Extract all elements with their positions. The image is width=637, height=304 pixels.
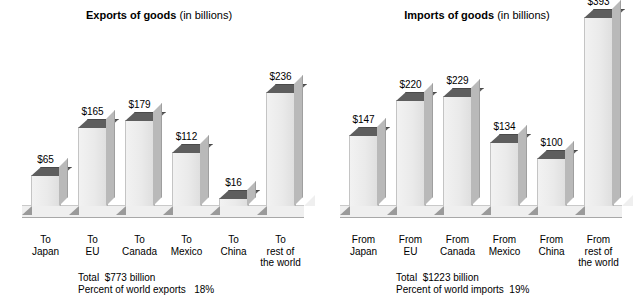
imports-panel: Imports of goods (in billions) $147 bbox=[318, 0, 636, 304]
exports-bar-rest-of-world[interactable]: $236 bbox=[266, 92, 296, 206]
imports-bar-shadow-canada bbox=[434, 206, 444, 215]
imports-category-mexico: From Mexico bbox=[481, 234, 528, 269]
imports-bar-japan[interactable]: $147 bbox=[349, 135, 379, 206]
imports-bar-side-japan bbox=[377, 118, 386, 206]
exports-bar-eu[interactable]: $165 bbox=[78, 127, 108, 206]
exports-bar-side-eu bbox=[106, 110, 115, 206]
exports-value-mexico: $112 bbox=[176, 131, 198, 142]
exports-category-eu: To EU bbox=[69, 234, 116, 269]
imports-bar-shadow-rest bbox=[575, 206, 585, 215]
exports-bar-front-eu bbox=[78, 127, 108, 206]
imports-bar-front-rest bbox=[584, 17, 614, 206]
exports-bar-canada[interactable]: $179 bbox=[125, 120, 155, 206]
imports-bar-shadow-eu bbox=[387, 206, 397, 215]
exports-bar-side-china bbox=[247, 181, 256, 206]
imports-category-eu: From EU bbox=[387, 234, 434, 269]
exports-bar-shadow-rest bbox=[257, 206, 267, 215]
exports-category-japan: To Japan bbox=[22, 234, 69, 269]
imports-category-canada: From Canada bbox=[434, 234, 481, 269]
imports-category-china: From China bbox=[528, 234, 575, 269]
exports-value-canada: $179 bbox=[128, 99, 150, 110]
imports-bar-slot-canada: $229 bbox=[434, 22, 481, 206]
imports-bar-front-canada bbox=[443, 96, 473, 206]
imports-bar-side-mexico bbox=[518, 125, 527, 206]
imports-bar-front-eu bbox=[396, 100, 426, 206]
exports-bar-shadow-china bbox=[210, 206, 220, 215]
exports-bar-front-canada bbox=[125, 120, 155, 206]
exports-bar-mexico[interactable]: $112 bbox=[172, 152, 202, 206]
imports-floor-edge bbox=[622, 195, 633, 206]
exports-bar-shadow-japan bbox=[22, 206, 32, 215]
exports-bar-side-japan bbox=[59, 158, 68, 206]
exports-bar-side-mexico bbox=[200, 135, 209, 206]
exports-bar-slot-mexico: $112 bbox=[163, 22, 210, 206]
imports-bar-slot-china: $100 bbox=[528, 22, 575, 206]
imports-total: Total $1223 billion bbox=[396, 272, 636, 284]
exports-bar-shadow-mexico bbox=[163, 206, 173, 215]
exports-bar-front-rest bbox=[266, 92, 296, 206]
imports-bar-slot-eu: $220 bbox=[387, 22, 434, 206]
two-panel-bar-chart: Exports of goods (in billions) $65 bbox=[0, 0, 637, 304]
exports-bar-slot-eu: $165 bbox=[69, 22, 116, 206]
exports-bar-slot-rest: $236 bbox=[257, 22, 304, 206]
exports-category-labels: To Japan To EU To Canada To Mexico To Ch… bbox=[22, 234, 304, 269]
imports-bar-china[interactable]: $100 bbox=[537, 158, 567, 206]
imports-plot-area: $147 $220 bbox=[318, 0, 636, 230]
exports-bar-slot-china: $16 bbox=[210, 22, 257, 206]
exports-bar-group: $65 $165 bbox=[22, 22, 304, 206]
imports-footer: Total $1223 billion Percent of world imp… bbox=[318, 272, 636, 295]
imports-bar-front-mexico bbox=[490, 142, 520, 206]
imports-bar-canada[interactable]: $229 bbox=[443, 96, 473, 206]
exports-bar-side-canada bbox=[153, 103, 162, 206]
exports-total: Total $773 billion bbox=[78, 272, 318, 284]
exports-floor-edge bbox=[304, 195, 315, 206]
imports-value-canada: $229 bbox=[446, 75, 468, 86]
imports-value-rest-of-world: $393 bbox=[587, 0, 609, 7]
imports-value-mexico: $134 bbox=[493, 121, 515, 132]
imports-bar-front-china bbox=[537, 158, 567, 206]
exports-value-china: $16 bbox=[225, 177, 242, 188]
imports-category-japan: From Japan bbox=[340, 234, 387, 269]
imports-value-china: $100 bbox=[540, 137, 562, 148]
exports-bar-front-mexico bbox=[172, 152, 202, 206]
exports-bar-front-china bbox=[219, 198, 249, 206]
exports-bar-front-japan bbox=[31, 175, 61, 206]
imports-category-labels: From Japan From EU From Canada From Mexi… bbox=[340, 234, 622, 269]
imports-bar-eu[interactable]: $220 bbox=[396, 100, 426, 206]
exports-bar-slot-canada: $179 bbox=[116, 22, 163, 206]
exports-percent-of-world: Percent of world exports 18% bbox=[78, 284, 318, 296]
exports-bar-china[interactable]: $16 bbox=[219, 198, 249, 206]
imports-bar-side-canada bbox=[471, 79, 480, 206]
exports-bar-shadow-canada bbox=[116, 206, 126, 215]
exports-bar-japan[interactable]: $65 bbox=[31, 175, 61, 206]
exports-category-mexico: To Mexico bbox=[163, 234, 210, 269]
exports-category-canada: To Canada bbox=[116, 234, 163, 269]
imports-percent-of-world: Percent of world imports 19% bbox=[396, 284, 636, 296]
imports-bar-front-japan bbox=[349, 135, 379, 206]
exports-bar-shadow-eu bbox=[69, 206, 79, 215]
imports-bar-group: $147 $220 bbox=[340, 22, 622, 206]
exports-plot-area: $65 $165 bbox=[0, 0, 318, 230]
imports-bar-shadow-mexico bbox=[481, 206, 491, 215]
imports-value-japan: $147 bbox=[352, 114, 374, 125]
imports-bar-side-eu bbox=[424, 83, 433, 206]
imports-bar-side-rest bbox=[612, 0, 621, 206]
imports-bar-slot-rest: $393 bbox=[575, 22, 622, 206]
exports-panel: Exports of goods (in billions) $65 bbox=[0, 0, 318, 304]
imports-bar-side-china bbox=[565, 141, 574, 206]
exports-value-eu: $165 bbox=[81, 106, 103, 117]
imports-value-eu: $220 bbox=[399, 79, 421, 90]
imports-category-rest-of-world: From rest of the world bbox=[575, 234, 622, 269]
imports-bar-rest-of-world[interactable]: $393 bbox=[584, 17, 614, 206]
imports-bar-mexico[interactable]: $134 bbox=[490, 142, 520, 206]
exports-category-rest-of-world: To rest of the world bbox=[257, 234, 304, 269]
imports-bar-shadow-china bbox=[528, 206, 538, 215]
imports-bar-slot-japan: $147 bbox=[340, 22, 387, 206]
exports-value-japan: $65 bbox=[37, 154, 54, 165]
exports-footer: Total $773 billion Percent of world expo… bbox=[0, 272, 318, 295]
imports-bar-shadow-japan bbox=[340, 206, 350, 215]
exports-bar-side-rest bbox=[294, 75, 303, 206]
exports-bar-slot-japan: $65 bbox=[22, 22, 69, 206]
exports-category-china: To China bbox=[210, 234, 257, 269]
exports-value-rest-of-world: $236 bbox=[269, 71, 291, 82]
